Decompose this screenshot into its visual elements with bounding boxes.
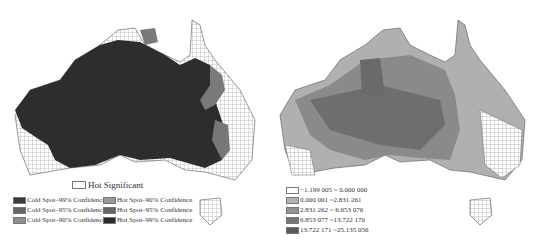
legend-label: Hot Spot–90% Confidence bbox=[117, 196, 192, 204]
legend-swatch bbox=[13, 217, 26, 224]
legend-swatch bbox=[13, 197, 26, 204]
legend-swatch bbox=[286, 187, 299, 194]
legend-label: Hot Spot–95% Confidence bbox=[117, 206, 192, 214]
legend-item: Cold Spot–99% Confidence bbox=[13, 196, 106, 204]
legend-label: 0.000 001 ~2.831 261 bbox=[300, 196, 362, 204]
legend-item: 0.000 001 ~2.831 261 bbox=[286, 196, 362, 204]
legend-swatch bbox=[286, 197, 299, 204]
legend-item: Cold Spot–95% Confidence bbox=[13, 206, 106, 214]
legend-item: Hot Spot–90% Confidence bbox=[103, 196, 192, 204]
legend-item: −1.199 005 ~ 0.000 000 bbox=[286, 186, 367, 194]
legend-label: Cold Spot–95% Confidence bbox=[27, 206, 106, 214]
legend-swatch bbox=[72, 181, 86, 189]
legend-label: −1.199 005 ~ 0.000 000 bbox=[300, 186, 367, 194]
legend-swatch bbox=[286, 207, 299, 214]
hot-significant-legend: Hot Significant bbox=[72, 180, 143, 190]
legend-item: Hot Spot–95% Confidence bbox=[103, 206, 192, 214]
legend-item: Hot Spot–99% Confidence bbox=[103, 216, 192, 224]
legend-label: Hot Spot–99% Confidence bbox=[117, 216, 192, 224]
legend-item: Cold Spot–90% Confidence bbox=[13, 216, 106, 224]
legend-label: 6.853 077 ~13.722 170 bbox=[300, 216, 365, 224]
legend-swatch bbox=[103, 217, 116, 224]
legend-item: 13.722 171 ~25.135 056 bbox=[286, 226, 369, 234]
legend-label: Hot Significant bbox=[88, 180, 143, 190]
legend-label: 13.722 171 ~25.135 056 bbox=[300, 226, 369, 234]
legend-swatch bbox=[286, 217, 299, 224]
legend-item: 2.831 262 ~ 6.653 076 bbox=[286, 206, 363, 214]
legend-swatch bbox=[13, 207, 26, 214]
legend-swatch bbox=[103, 197, 116, 204]
legend-swatch bbox=[103, 207, 116, 214]
legend-swatch bbox=[286, 227, 299, 234]
legend-label: 2.831 262 ~ 6.653 076 bbox=[300, 206, 363, 214]
legend-label: Cold Spot–90% Confidence bbox=[27, 216, 106, 224]
legend-label: Cold Spot–99% Confidence bbox=[27, 196, 106, 204]
legend-item: 6.853 077 ~13.722 170 bbox=[286, 216, 365, 224]
